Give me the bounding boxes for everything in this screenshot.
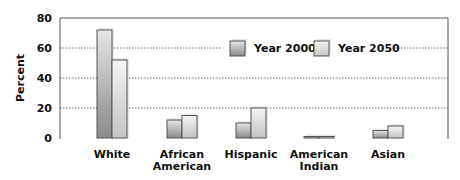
x-category-label: AmericanIndian [290,148,348,173]
y-tick-label: 40 [37,72,53,85]
bar-year-2050 [182,116,197,139]
y-tick-label: 0 [44,132,52,145]
bar-year-2050 [251,108,266,138]
x-category-label: Asian [371,148,405,161]
bar-chart: 020406080 Percent WhiteAfricanAmericanHi… [0,0,460,180]
legend: Year 2000Year 2050 [230,39,400,56]
legend-swatch [314,41,329,56]
x-axis-labels: WhiteAfricanAmericanHispanicAmericanIndi… [94,148,405,173]
bar-year-2000 [304,137,319,139]
bar-year-2000 [167,120,182,138]
y-tick-label: 60 [37,42,53,55]
x-category-label: Hispanic [225,148,278,161]
y-axis-label: Percent [14,54,27,102]
x-category-label: AfricanAmerican [153,148,211,173]
bar-year-2050 [388,126,403,138]
bar-year-2000 [97,30,112,138]
legend-label: Year 2050 [337,42,400,55]
x-category-label: White [94,148,130,161]
legend-swatch [230,41,245,56]
y-tick-label: 80 [37,12,53,25]
y-tick-label: 20 [37,102,53,115]
y-axis-ticks: 020406080 [37,12,53,145]
legend-label: Year 2000 [253,42,316,55]
bar-year-2050 [112,60,127,138]
bar-year-2000 [236,123,251,138]
bar-year-2050 [319,137,334,139]
bar-year-2000 [373,131,388,139]
